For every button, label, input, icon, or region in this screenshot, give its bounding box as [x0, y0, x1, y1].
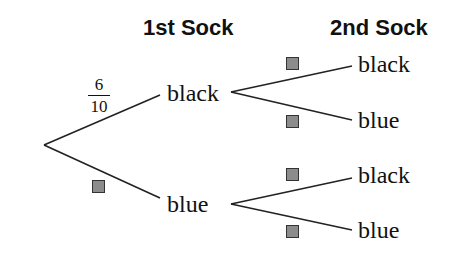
node-second-blue-from-blue: blue: [358, 218, 399, 242]
blank-probability-box-black-blue[interactable]: [286, 115, 299, 128]
blank-probability-box-first-blue[interactable]: [92, 180, 105, 193]
node-second-black-from-blue: black: [358, 163, 410, 187]
node-second-blue-from-black: blue: [358, 108, 399, 132]
probability-fraction-black: 6 10: [86, 76, 112, 115]
blank-probability-box-blue-black[interactable]: [286, 168, 299, 181]
node-second-black-from-black: black: [358, 52, 410, 76]
branch-blue-to-black: [231, 178, 352, 204]
node-first-blue: blue: [167, 192, 208, 216]
blank-probability-box-black-black[interactable]: [286, 57, 299, 70]
header-second-sock: 2nd Sock: [330, 17, 428, 39]
fraction-numerator: 6: [86, 76, 112, 95]
tree-diagram: 1st Sock 2nd Sock 6 10 black blue black …: [0, 0, 471, 256]
blank-probability-box-blue-blue[interactable]: [286, 225, 299, 238]
fraction-denominator: 10: [86, 96, 112, 115]
node-first-black: black: [167, 81, 219, 105]
header-first-sock: 1st Sock: [143, 17, 234, 39]
